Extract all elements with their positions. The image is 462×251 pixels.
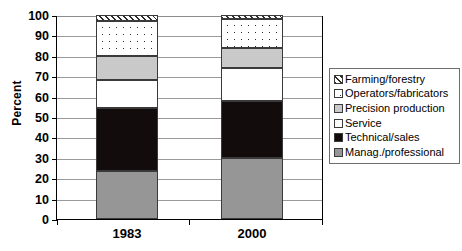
legend-label: Precision production — [345, 103, 445, 114]
gray-swatch — [334, 148, 343, 157]
y-tick-mark-80 — [52, 57, 57, 58]
y-tick-mark-70 — [52, 77, 57, 78]
y-tick-mark-30 — [52, 159, 57, 160]
bar-segment-precision-production-2000 — [221, 48, 283, 68]
legend-item-farming-forestry: Farming/forestry — [332, 72, 457, 87]
dotted-swatch — [334, 89, 343, 98]
bar-segment-manag-professional-2000 — [221, 158, 283, 219]
y-tick-mark-100 — [52, 16, 57, 17]
legend-label: Operators/fabricators — [345, 88, 448, 99]
legend-label: Manag./professional — [345, 147, 444, 158]
y-tick-label-90: 90 — [35, 29, 49, 43]
y-tick-label-100: 100 — [28, 9, 49, 23]
legend-item-operators-fabricators: Operators/fabricators — [332, 87, 457, 102]
y-tick-mark-90 — [52, 36, 57, 37]
y-tick-label-70: 70 — [35, 70, 49, 84]
bar-segment-precision-production-1983 — [96, 56, 158, 80]
legend-label: Technical/sales — [345, 132, 420, 143]
y-tick-label-30: 30 — [35, 152, 49, 166]
x-tick-mark-0 — [57, 219, 58, 225]
x-axis-label-1983: 1983 — [72, 226, 182, 241]
x-tick-mark-2 — [322, 219, 323, 225]
y-tick-mark-40 — [52, 138, 57, 139]
legend-label: Service — [345, 118, 382, 129]
bar-1983 — [96, 15, 158, 219]
white-swatch — [334, 119, 343, 128]
bar-2000 — [221, 15, 283, 219]
y-tick-label-0: 0 — [42, 213, 49, 227]
bar-segment-farming-forestry-2000 — [221, 15, 283, 19]
bar-segment-technical-sales-2000 — [221, 101, 283, 158]
legend-item-technical-sales: Technical/sales — [332, 130, 457, 145]
y-tick-mark-50 — [52, 118, 57, 119]
bar-segment-operators-fabricators-1983 — [96, 21, 158, 56]
y-tick-label-80: 80 — [35, 50, 49, 64]
y-tick-label-50: 50 — [35, 111, 49, 125]
chart-legend: Farming/forestryOperators/fabricatorsPre… — [329, 68, 460, 164]
legend-label: Farming/forestry — [345, 74, 425, 85]
plot-area: 0102030405060708090100 — [56, 16, 323, 220]
y-tick-label-10: 10 — [35, 193, 49, 207]
y-tick-label-40: 40 — [35, 131, 49, 145]
light-gray-swatch — [334, 104, 343, 113]
y-tick-mark-10 — [52, 200, 57, 201]
y-tick-label-60: 60 — [35, 91, 49, 105]
bar-segment-manag-professional-1983 — [96, 171, 158, 219]
legend-item-precision-production: Precision production — [332, 101, 457, 116]
bar-segment-operators-fabricators-2000 — [221, 19, 283, 48]
bar-segment-service-2000 — [221, 68, 283, 101]
y-tick-label-20: 20 — [35, 172, 49, 186]
x-axis-label-2000: 2000 — [197, 226, 307, 241]
y-axis-title: Percent — [10, 68, 24, 138]
bar-segment-technical-sales-1983 — [96, 108, 158, 171]
black-swatch — [334, 133, 343, 142]
y-tick-mark-20 — [52, 179, 57, 180]
x-tick-mark-1 — [189, 219, 190, 225]
bar-segment-farming-forestry-1983 — [96, 15, 158, 21]
diagonal-hatch-swatch — [334, 75, 343, 84]
y-tick-mark-60 — [52, 98, 57, 99]
bar-segment-service-1983 — [96, 80, 158, 108]
legend-item-manag-professional: Manag./professional — [332, 145, 457, 160]
legend-item-service: Service — [332, 116, 457, 131]
stacked-bar-chart: Percent 0102030405060708090100 19832000 … — [0, 0, 462, 251]
